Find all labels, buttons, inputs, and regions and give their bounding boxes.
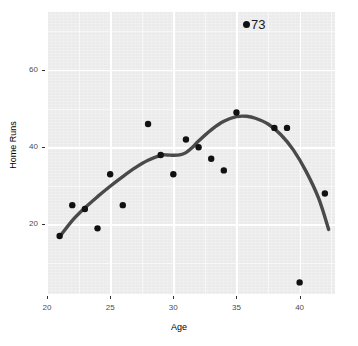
data-point: [183, 136, 189, 142]
data-point: [221, 167, 227, 173]
y-tick-label-40: 40: [22, 142, 38, 151]
x-tick-mark-25: [110, 296, 111, 299]
scatter-plot-figure: 204060 2025303540 Age Home Runs 73: [0, 0, 358, 346]
data-point: [107, 171, 113, 177]
data-point: [94, 225, 100, 231]
outlier-callout: 73: [243, 18, 265, 31]
x-tick-label-20: 20: [37, 303, 57, 312]
data-point: [271, 125, 277, 131]
y-tick-mark-20: [42, 224, 45, 225]
data-point: [296, 279, 302, 285]
y-axis-title: Home Runs: [8, 95, 18, 195]
data-point: [284, 125, 290, 131]
x-tick-mark-35: [236, 296, 237, 299]
data-point: [170, 171, 176, 177]
y-tick-label-60: 60: [22, 65, 38, 74]
y-tick-mark-60: [42, 70, 45, 71]
y-tick-mark-40: [42, 147, 45, 148]
data-point: [69, 202, 75, 208]
x-tick-label-30: 30: [163, 303, 183, 312]
x-tick-mark-40: [300, 296, 301, 299]
x-tick-label-40: 40: [290, 303, 310, 312]
outlier-callout-label: 73: [251, 18, 265, 31]
data-point: [195, 144, 201, 150]
trend-line: [60, 116, 329, 237]
x-tick-label-35: 35: [226, 303, 246, 312]
y-tick-label-20: 20: [22, 219, 38, 228]
x-tick-mark-20: [47, 296, 48, 299]
data-point: [208, 156, 214, 162]
data-point: [82, 206, 88, 212]
data-point: [322, 190, 328, 196]
data-point: [233, 109, 239, 115]
x-axis-title: Age: [0, 322, 358, 332]
data-point: [145, 121, 151, 127]
outlier-callout-marker: [243, 21, 250, 28]
data-point: [120, 202, 126, 208]
plot-graphics: [0, 0, 358, 346]
x-tick-mark-30: [173, 296, 174, 299]
data-point: [157, 152, 163, 158]
x-tick-label-25: 25: [100, 303, 120, 312]
data-point: [56, 233, 62, 239]
